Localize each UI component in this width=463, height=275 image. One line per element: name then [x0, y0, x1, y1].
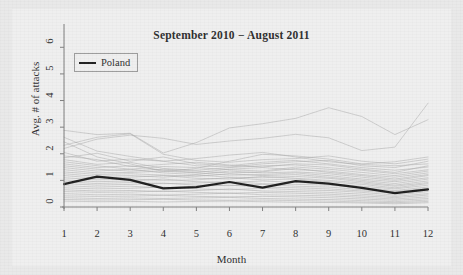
x-tick-label: 7: [251, 228, 275, 239]
chart-panel: September 2010 − August 2011 Avg. # of a…: [12, 9, 451, 266]
y-tick-label: 2: [44, 145, 55, 159]
x-tick-label: 10: [350, 228, 374, 239]
x-tick-label: 11: [383, 228, 407, 239]
x-tick-label: 2: [85, 228, 109, 239]
y-tick-label: 1: [44, 172, 55, 186]
x-tick-label: 12: [416, 228, 440, 239]
y-tick-label: 6: [44, 39, 55, 53]
y-tick-label: 3: [44, 119, 55, 133]
y-axis-label: Avg. # of attacks: [29, 29, 41, 169]
x-tick-label: 4: [151, 228, 175, 239]
y-tick-label: 0: [44, 199, 55, 213]
series-line-background: [64, 108, 428, 153]
y-tick-label: 4: [44, 92, 55, 106]
legend-line-swatch-poland: [79, 62, 96, 64]
chart-figure: September 2010 − August 2011 Avg. # of a…: [0, 0, 463, 275]
legend-label-poland: Poland: [101, 57, 130, 68]
x-tick-label: 1: [52, 228, 76, 239]
legend[interactable]: Poland: [74, 53, 138, 72]
x-axis-label: Month: [12, 253, 451, 265]
x-tick-label: 5: [184, 228, 208, 239]
x-tick-label: 3: [118, 228, 142, 239]
series-line-background: [64, 134, 428, 164]
y-tick-label: 5: [44, 65, 55, 79]
x-tick-label: 9: [317, 228, 341, 239]
x-tick-label: 8: [284, 228, 308, 239]
series-layer: [64, 103, 428, 204]
series-line-background: [64, 142, 428, 172]
x-tick-label: 6: [217, 228, 241, 239]
series-line-background: [64, 103, 428, 150]
chart-title: September 2010 − August 2011: [12, 29, 451, 41]
